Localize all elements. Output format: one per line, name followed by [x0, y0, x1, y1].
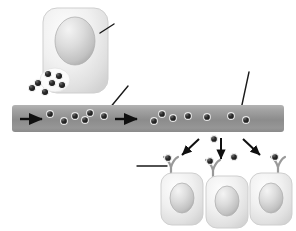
free-signal-molecule-1: [211, 136, 218, 143]
signal-molecule: [44, 70, 51, 77]
free-signal-molecule-2: [231, 154, 238, 161]
signal-molecule: [185, 113, 192, 120]
target-cell-center-nucleus: [215, 186, 239, 216]
signal-molecule: [82, 117, 89, 124]
endocrine-signaling-diagram: [0, 0, 296, 231]
signal-molecule: [34, 79, 41, 86]
blood-vessel: [12, 105, 284, 132]
signal-molecule: [228, 113, 235, 120]
bound-signal-molecule-center: [207, 158, 214, 165]
signal-molecule: [243, 117, 250, 124]
signal-molecule: [72, 113, 79, 120]
signal-molecule: [151, 118, 158, 125]
target-cell-right-nucleus: [259, 183, 283, 213]
signal-molecule: [170, 115, 177, 122]
bound-signal-molecule-right: [272, 154, 279, 161]
signal-molecule: [48, 79, 55, 86]
signal-molecule: [58, 81, 65, 88]
bound-signal-molecule-left: [165, 155, 172, 162]
secreting-cell-nucleus: [55, 17, 95, 65]
signal-molecule: [87, 110, 94, 117]
signal-molecule: [159, 111, 166, 118]
signal-molecule: [28, 84, 35, 91]
target-cell-left-nucleus: [170, 183, 194, 213]
signal-molecule: [55, 72, 62, 79]
signal-molecule: [204, 114, 211, 121]
signal-molecule: [41, 88, 48, 95]
signal-molecule: [61, 118, 68, 125]
signal-molecule: [47, 111, 54, 118]
signal-molecule: [101, 113, 108, 120]
diagram-canvas: [0, 0, 296, 231]
